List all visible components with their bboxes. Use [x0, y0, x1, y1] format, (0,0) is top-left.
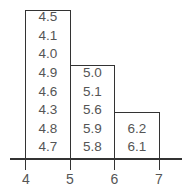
bar-values: 4.5 4.1 4.0 4.9 4.6 4.3 4.8 4.7 [26, 8, 70, 157]
value: 6.1 [128, 138, 147, 157]
value: 4.8 [39, 120, 58, 139]
value: 5.9 [83, 120, 102, 139]
x-tick-label: 4 [16, 171, 36, 187]
bar-4-5: 4.5 4.1 4.0 4.9 4.6 4.3 4.8 4.7 [25, 10, 71, 159]
x-tick-label: 6 [105, 171, 125, 187]
x-axis [10, 158, 182, 160]
value: 5.6 [83, 101, 102, 120]
x-tick [25, 158, 26, 170]
x-tick-label: 7 [149, 171, 169, 187]
value: 4.0 [39, 45, 58, 64]
value: 5.1 [83, 83, 102, 102]
x-tick [70, 158, 71, 170]
value: 4.3 [39, 101, 58, 120]
value: 6.2 [128, 120, 147, 139]
bar-values: 5.0 5.1 5.6 5.9 5.8 [71, 64, 114, 157]
bar-5-6: 5.0 5.1 5.6 5.9 5.8 [70, 65, 115, 159]
x-tick-label: 5 [60, 171, 80, 187]
x-tick [159, 158, 160, 170]
bar-6-7: 6.2 6.1 [114, 112, 160, 159]
value: 4.6 [39, 83, 58, 102]
bar-values: 6.2 6.1 [115, 120, 159, 157]
value: 5.8 [83, 138, 102, 157]
value: 4.1 [39, 27, 58, 46]
value: 4.5 [39, 8, 58, 27]
value: 4.7 [39, 138, 58, 157]
value: 5.0 [83, 64, 102, 83]
x-tick [114, 158, 115, 170]
value: 4.9 [39, 64, 58, 83]
